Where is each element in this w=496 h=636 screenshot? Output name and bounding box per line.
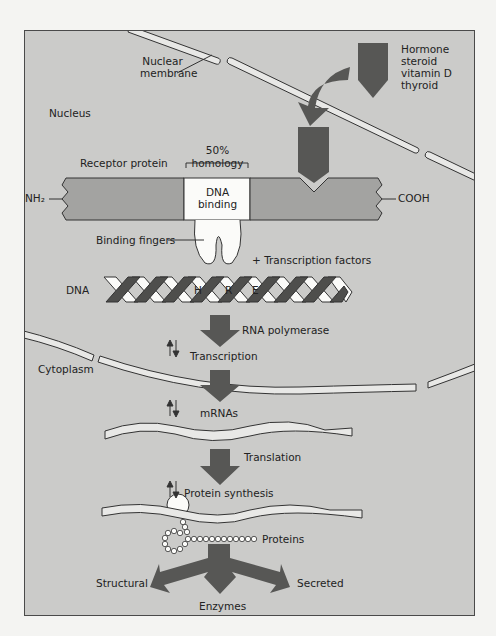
receptor-right <box>250 178 382 220</box>
diagram-graphics <box>0 0 496 636</box>
hormone-label: Hormonesteroidvitamin Dthyroid <box>401 43 452 91</box>
rna-polymerase-label: RNA polymerase <box>242 324 329 336</box>
hre-e-label: E <box>252 284 259 296</box>
dna-binding-label: DNAbinding <box>190 186 245 210</box>
hormone-docked <box>298 127 329 183</box>
binding-fingers <box>194 220 241 264</box>
receptor-protein-label: Receptor protein <box>80 157 168 169</box>
structural-label: Structural <box>96 577 148 589</box>
transcription-arrow <box>200 315 240 347</box>
nh2-label: NH₂ <box>25 192 45 204</box>
cytoplasm-label: Cytoplasm <box>38 363 94 375</box>
translation-arrow <box>200 449 240 485</box>
cooh-label: COOH <box>398 192 430 204</box>
hre-r-label: R <box>225 284 232 296</box>
hormone-arrow <box>358 43 388 98</box>
transcription-factors-label: + Transcription factors <box>252 254 371 266</box>
hre-h-label: H <box>194 284 202 296</box>
homology-percent-label: 50% <box>195 144 240 156</box>
mrna-strand-2 <box>102 504 362 523</box>
dna-label: DNA <box>66 284 89 296</box>
binding-fingers-label: Binding fingers <box>96 234 175 246</box>
translation-label: Translation <box>244 451 301 463</box>
homology-label: homology <box>190 157 245 169</box>
secreted-label: Secreted <box>297 577 344 589</box>
proteins-label: Proteins <box>262 533 304 545</box>
enzymes-label: Enzymes <box>199 600 246 612</box>
nuclear-membrane-label: Nuclearmembrane <box>140 55 185 79</box>
mrna-strand <box>105 422 352 441</box>
transcription-label: Transcription <box>190 350 258 362</box>
mrna-arrow <box>200 370 240 402</box>
mrnas-label: mRNAs <box>200 407 238 419</box>
receptor-left <box>62 178 184 220</box>
protein-synthesis-label: Protein synthesis <box>184 487 274 499</box>
updown-arrows <box>167 340 179 498</box>
nucleus-label: Nucleus <box>49 107 91 119</box>
